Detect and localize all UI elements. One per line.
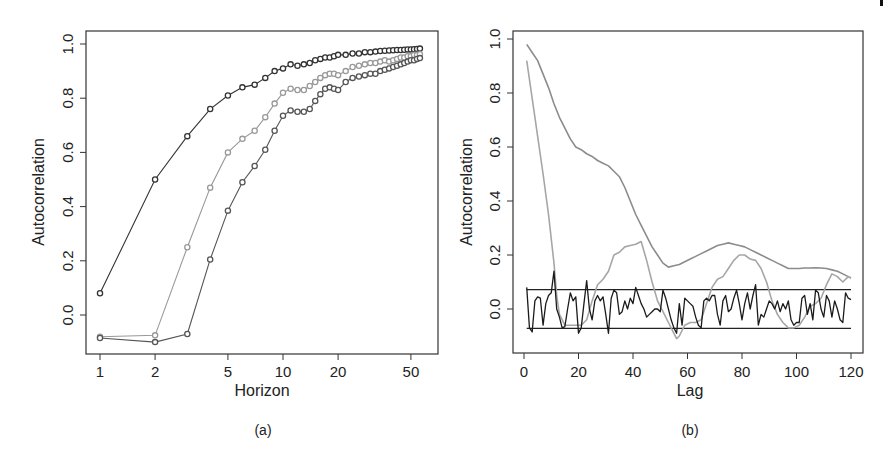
data-point-marker bbox=[417, 55, 422, 60]
data-point-marker bbox=[301, 109, 306, 114]
data-point-marker bbox=[152, 333, 157, 338]
data-point-marker bbox=[295, 109, 300, 114]
data-point-marker bbox=[307, 83, 312, 88]
x-tick-label: 80 bbox=[734, 363, 751, 380]
data-point-marker bbox=[208, 106, 213, 111]
x-tick-label: 5 bbox=[224, 363, 232, 380]
data-point-marker bbox=[313, 98, 318, 103]
data-point-marker bbox=[152, 177, 157, 182]
data-point-marker bbox=[280, 66, 285, 71]
panel-b-caption: (b) bbox=[681, 422, 698, 438]
data-point-marker bbox=[272, 101, 277, 106]
data-point-marker bbox=[343, 69, 348, 74]
data-point-marker bbox=[240, 180, 245, 185]
figure-canvas: 0.00.20.40.60.81.0 125102050 Horizon Aut… bbox=[0, 0, 894, 458]
data-point-marker bbox=[208, 185, 213, 190]
y-tick-label: 0.8 bbox=[486, 83, 503, 104]
data-point-marker bbox=[185, 245, 190, 250]
x-tick-label: 1 bbox=[96, 363, 104, 380]
data-point-marker bbox=[356, 63, 361, 68]
x-tick-label: 100 bbox=[784, 363, 809, 380]
data-point-marker bbox=[252, 128, 257, 133]
data-series-series-3 bbox=[97, 55, 422, 344]
data-point-marker bbox=[368, 60, 373, 65]
data-point-marker bbox=[343, 79, 348, 84]
data-point-marker bbox=[185, 331, 190, 336]
panel-a-y-axis: 0.00.20.40.60.81.0 bbox=[59, 34, 86, 326]
data-point-marker bbox=[225, 208, 230, 213]
data-series-series-2 bbox=[97, 52, 422, 340]
data-point-marker bbox=[252, 82, 257, 87]
y-tick-label: 0.0 bbox=[59, 305, 76, 326]
panel-a-horizon-plot: 0.00.20.40.60.81.0 125102050 Horizon Aut… bbox=[30, 31, 438, 438]
panel-b-y-axis-title: Autocorrelation bbox=[458, 138, 475, 246]
data-point-marker bbox=[313, 79, 318, 84]
data-point-marker bbox=[152, 340, 157, 345]
panel-b-y-axis: 0.00.20.40.60.81.0 bbox=[486, 29, 513, 320]
x-tick-label: 40 bbox=[625, 363, 642, 380]
data-point-marker bbox=[295, 87, 300, 92]
y-tick-label: 0.4 bbox=[486, 191, 503, 212]
y-tick-label: 0.2 bbox=[486, 245, 503, 266]
data-point-marker bbox=[350, 75, 355, 80]
data-point-marker bbox=[307, 60, 312, 65]
data-point-marker bbox=[280, 90, 285, 95]
data-point-marker bbox=[288, 62, 293, 67]
x-tick-label: 50 bbox=[403, 363, 420, 380]
y-tick-label: 0.2 bbox=[59, 250, 76, 271]
data-point-marker bbox=[368, 71, 373, 76]
panel-a-caption: (a) bbox=[254, 422, 271, 438]
data-point-marker bbox=[263, 115, 268, 120]
data-point-marker bbox=[313, 58, 318, 63]
crop-mark bbox=[880, 0, 883, 6]
x-tick-label: 2 bbox=[151, 363, 159, 380]
data-point-marker bbox=[362, 62, 367, 67]
data-point-marker bbox=[240, 136, 245, 141]
y-tick-label: 0.6 bbox=[59, 142, 76, 163]
data-point-marker bbox=[252, 163, 257, 168]
y-tick-label: 1.0 bbox=[59, 34, 76, 55]
data-point-marker bbox=[307, 106, 312, 111]
data-point-marker bbox=[295, 63, 300, 68]
data-point-marker bbox=[263, 75, 268, 80]
data-point-marker bbox=[362, 73, 367, 78]
data-point-marker bbox=[350, 64, 355, 69]
data-point-marker bbox=[335, 52, 340, 57]
data-point-marker bbox=[318, 92, 323, 97]
data-point-marker bbox=[288, 108, 293, 113]
data-point-marker bbox=[97, 291, 102, 296]
panel-b-series bbox=[527, 44, 851, 338]
series-line bbox=[100, 49, 420, 294]
data-point-marker bbox=[362, 50, 367, 55]
data-point-marker bbox=[343, 52, 348, 57]
data-point-marker bbox=[356, 74, 361, 79]
panel-b-x-axis: 020406080100120 bbox=[520, 353, 864, 380]
data-point-marker bbox=[280, 113, 285, 118]
x-tick-label: 0 bbox=[520, 363, 528, 380]
x-tick-label: 60 bbox=[679, 363, 696, 380]
panel-b-x-axis-title: Lag bbox=[677, 382, 704, 399]
data-point-marker bbox=[208, 257, 213, 262]
data-point-marker bbox=[335, 87, 340, 92]
y-tick-label: 0.8 bbox=[59, 88, 76, 109]
data-point-marker bbox=[301, 62, 306, 67]
data-point-marker bbox=[368, 50, 373, 55]
data-point-marker bbox=[417, 46, 422, 51]
data-point-marker bbox=[272, 128, 277, 133]
y-tick-label: 0.0 bbox=[486, 299, 503, 320]
panel-a-y-axis-title: Autocorrelation bbox=[30, 138, 47, 246]
y-tick-label: 0.4 bbox=[59, 196, 76, 217]
data-series-series-1 bbox=[97, 46, 422, 296]
data-point-marker bbox=[272, 69, 277, 74]
x-tick-label: 20 bbox=[570, 363, 587, 380]
series-line bbox=[100, 54, 420, 336]
data-point-marker bbox=[356, 51, 361, 56]
panel-b-lag-plot: 0.00.20.40.60.81.0 020406080100120 Lag A… bbox=[458, 29, 864, 438]
data-point-marker bbox=[225, 150, 230, 155]
series-line bbox=[100, 58, 420, 342]
data-point-marker bbox=[301, 87, 306, 92]
data-point-marker bbox=[240, 85, 245, 90]
x-tick-label: 20 bbox=[330, 363, 347, 380]
data-point-marker bbox=[350, 51, 355, 56]
y-tick-label: 1.0 bbox=[486, 29, 503, 50]
